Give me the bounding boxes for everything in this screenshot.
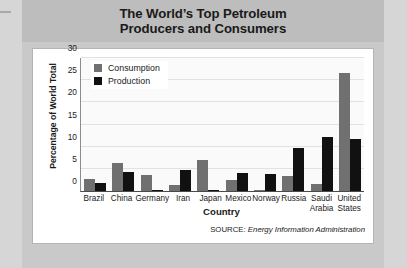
bar-production bbox=[293, 148, 304, 191]
source-note: SOURCE: Energy Information Administratio… bbox=[210, 225, 365, 234]
chart-legend: ConsumptionProduction bbox=[91, 61, 168, 89]
y-tick-label: 15 bbox=[68, 110, 77, 120]
bar-group bbox=[336, 58, 364, 191]
y-axis-label: Percentage of World Total bbox=[48, 51, 58, 181]
bar-consumption bbox=[226, 180, 237, 191]
chart-panel: Percentage of World Total 051015202530 B… bbox=[32, 48, 374, 244]
bar-consumption bbox=[112, 163, 123, 191]
x-axis-label: Country bbox=[80, 206, 363, 217]
bar-consumption bbox=[169, 185, 180, 191]
chart-title-line-2: Producers and Consumers bbox=[120, 21, 286, 37]
y-tick-label: 10 bbox=[68, 132, 77, 142]
legend-swatch bbox=[94, 64, 102, 72]
y-tick-label: 30 bbox=[68, 43, 77, 53]
legend-label: Consumption bbox=[108, 63, 160, 73]
y-tick-label: 25 bbox=[68, 65, 77, 75]
bar-production bbox=[208, 190, 219, 191]
y-tick-label: 5 bbox=[72, 154, 77, 164]
figure-root: The World’s Top Petroleum Producers and … bbox=[0, 0, 407, 268]
bar-production bbox=[350, 139, 361, 191]
bar-production bbox=[322, 137, 333, 191]
bar-production bbox=[95, 183, 106, 191]
bar-group bbox=[251, 58, 279, 191]
bar-group bbox=[194, 58, 222, 191]
bar-production bbox=[180, 170, 191, 191]
bar-consumption bbox=[197, 160, 208, 191]
bar-production bbox=[237, 173, 248, 191]
legend-swatch bbox=[94, 77, 102, 85]
bar-group bbox=[279, 58, 307, 191]
legend-label: Production bbox=[108, 76, 150, 86]
legend-item: Production bbox=[94, 76, 160, 86]
left-margin-tick bbox=[0, 11, 11, 13]
bar-production bbox=[123, 172, 134, 191]
bar-consumption bbox=[141, 175, 152, 191]
bar-group bbox=[307, 58, 335, 191]
bar-consumption bbox=[311, 184, 322, 191]
chart-title-line-1: The World’s Top Petroleum bbox=[119, 6, 286, 22]
y-tick-label: 20 bbox=[68, 87, 77, 97]
title-band: The World’s Top Petroleum Producers and … bbox=[22, 0, 384, 42]
figure-card: The World’s Top Petroleum Producers and … bbox=[22, 0, 384, 268]
legend-item: Consumption bbox=[94, 63, 160, 73]
bar-chart: Percentage of World Total 051015202530 B… bbox=[33, 49, 373, 243]
source-prefix: SOURCE: bbox=[210, 225, 246, 234]
bar-group bbox=[166, 58, 194, 191]
bar-consumption bbox=[282, 176, 293, 191]
y-tick-label: 0 bbox=[72, 176, 77, 186]
bar-group bbox=[222, 58, 250, 191]
bar-consumption bbox=[254, 190, 265, 191]
bar-production bbox=[265, 174, 276, 191]
bar-consumption bbox=[84, 179, 95, 191]
source-text: Energy Information Administration bbox=[248, 225, 365, 234]
bar-consumption bbox=[339, 73, 350, 191]
bar-production bbox=[152, 190, 163, 191]
